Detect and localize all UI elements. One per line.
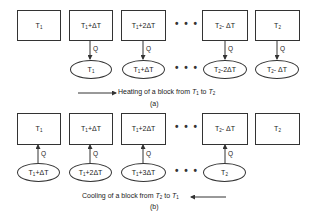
heat-flow-label: Q	[146, 45, 151, 52]
block-box: T2- ΔT	[202, 113, 248, 145]
ellipsis-dots: • • •	[175, 62, 199, 73]
cooling-caption: Cooling of a block from T2 to T1	[82, 192, 179, 200]
subfigure-label-a: (a)	[150, 100, 159, 107]
reservoir-ellipse: T1	[70, 60, 112, 79]
reservoir-ellipse: T1+3ΔT	[121, 163, 166, 182]
box-label: T1+ΔT	[81, 125, 101, 133]
reservoir-ellipse: T2	[203, 163, 246, 182]
block-box: T1+ΔT	[69, 113, 113, 145]
box-label: T1+2ΔT	[132, 125, 156, 133]
heat-flow-label: Q	[228, 45, 233, 52]
block-box: T1	[17, 113, 61, 145]
block-box: T1+2ΔT	[121, 113, 166, 145]
ellipse-label: T1	[88, 66, 95, 74]
reservoir-ellipse: T1+ΔT	[122, 60, 165, 79]
ellipse-label: T1+ΔT	[134, 66, 154, 74]
box-label: T1	[36, 125, 43, 133]
ellipse-label: T2-2ΔT	[214, 66, 236, 74]
ellipse-label: T1+ΔT	[29, 169, 49, 177]
ellipse-label: T2- ΔT	[267, 66, 287, 74]
reservoir-ellipse: T2-2ΔT	[203, 60, 247, 79]
box-label: T2	[274, 125, 281, 133]
heat-flow-label: Q	[280, 45, 285, 52]
box-label: T2- ΔT	[215, 125, 235, 133]
heat-flow-label: Q	[228, 150, 233, 157]
heat-flow-label: Q	[41, 150, 46, 157]
reservoir-ellipse: T1+2ΔT	[69, 163, 112, 182]
heat-flow-label: Q	[93, 45, 98, 52]
heat-flow-label: Q	[146, 150, 151, 157]
reservoir-ellipse: T1+ΔT	[17, 163, 60, 182]
ellipse-label: T2	[221, 169, 228, 177]
ellipsis-dots: • • •	[175, 165, 199, 176]
heat-flow-arrows	[0, 0, 311, 220]
ellipsis-dots: • • •	[175, 121, 199, 132]
heating-caption: Heating of a block from T1 to T2	[118, 88, 215, 96]
heat-flow-label: Q	[93, 150, 98, 157]
ellipse-label: T1+3ΔT	[132, 169, 156, 177]
subfigure-label-b: (b)	[150, 203, 159, 210]
block-box: T2	[255, 113, 300, 145]
reservoir-ellipse: T2- ΔT	[255, 60, 299, 79]
ellipse-label: T1+2ΔT	[79, 169, 103, 177]
